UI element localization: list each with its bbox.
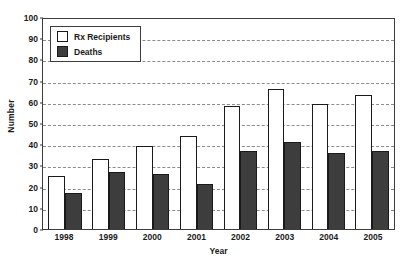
y-axis-tick-label: 90 [29, 34, 38, 44]
y-axis-tick-label: 0 [33, 225, 38, 235]
legend-item-rx-recipients: Rx Recipients [57, 31, 130, 42]
x-axis-tick-label: 2001 [174, 232, 218, 242]
x-axis-tick-label: 2004 [307, 232, 351, 242]
bar-group-2005 [350, 19, 394, 229]
y-axis-tick-labels: 0102030405060708090100 [18, 18, 40, 230]
x-axis-tick-labels: 19981999200020012002200320042005 [42, 232, 395, 242]
y-axis-title-text: Number [6, 99, 16, 132]
bar-rx-recipients-1998 [48, 176, 65, 229]
bar-deaths-2000 [153, 174, 170, 229]
x-axis-tick-label: 2002 [219, 232, 263, 242]
bar-rx-recipients-2005 [355, 95, 372, 229]
chart-legend: Rx RecipientsDeaths [50, 26, 141, 62]
x-axis-tick-label: 1998 [42, 232, 86, 242]
bar-deaths-2004 [328, 153, 345, 229]
bar-rx-recipients-2002 [224, 106, 241, 229]
y-axis-tick-label: 70 [29, 77, 38, 87]
y-axis-tick-label: 80 [29, 55, 38, 65]
bar-group-2002 [219, 19, 263, 229]
legend-item-deaths: Deaths [57, 46, 130, 57]
y-axis-tick-label: 10 [29, 204, 38, 214]
x-axis-tick-label: 1999 [86, 232, 130, 242]
bar-rx-recipients-2000 [136, 146, 153, 229]
bar-deaths-2003 [284, 142, 301, 229]
legend-label: Rx Recipients [74, 32, 130, 42]
bar-rx-recipients-1999 [92, 159, 109, 229]
bar-deaths-2005 [372, 151, 389, 229]
bar-rx-recipients-2003 [268, 89, 285, 229]
bar-group-2001 [175, 19, 219, 229]
y-axis-tick-label: 40 [29, 140, 38, 150]
x-axis-tick-label: 2003 [263, 232, 307, 242]
y-axis-tick-label: 20 [29, 183, 38, 193]
bar-group-2004 [306, 19, 350, 229]
legend-swatch-icon [57, 46, 68, 57]
x-axis-tick-label: 2005 [351, 232, 395, 242]
bar-deaths-1999 [109, 172, 126, 229]
y-axis-tick-label: 30 [29, 161, 38, 171]
legend-label: Deaths [74, 47, 102, 57]
x-axis-tick-label: 2000 [130, 232, 174, 242]
bar-chart-figure: Number 0102030405060708090100 Rx Recipie… [0, 0, 405, 267]
y-axis-tick-label: 100 [24, 13, 38, 23]
y-axis-tick-label: 50 [29, 119, 38, 129]
bar-rx-recipients-2004 [312, 104, 329, 229]
bar-rx-recipients-2001 [180, 136, 197, 229]
x-axis-title: Year [42, 246, 395, 256]
bar-deaths-1998 [65, 193, 82, 229]
bar-deaths-2002 [240, 151, 257, 229]
bar-deaths-2001 [197, 184, 214, 229]
bar-group-2003 [262, 19, 306, 229]
y-axis-tick-label: 60 [29, 98, 38, 108]
legend-swatch-icon [57, 31, 68, 42]
